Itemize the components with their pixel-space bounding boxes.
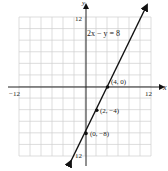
x-axis: x −12 12 (8, 83, 167, 98)
equation-label: 2x − y = 8 (87, 29, 120, 38)
svg-text:(4, 0): (4, 0) (111, 78, 127, 86)
coordinate-plane: x −12 12 y 12 12 2x − y = 8 (4, 0) (2, −… (0, 0, 168, 171)
y-min-tick: 12 (75, 152, 83, 160)
svg-text:(0, −8): (0, −8) (90, 130, 110, 138)
y-axis-label: y (81, 0, 86, 7)
y-max-tick: 12 (75, 15, 83, 23)
point-2-neg4: (2, −4) (95, 107, 120, 115)
x-axis-label: x (162, 83, 167, 92)
x-max-tick: 12 (145, 90, 153, 98)
point-0-neg8: (0, −8) (84, 130, 110, 138)
x-min-tick: −12 (9, 90, 20, 98)
svg-text:(2, −4): (2, −4) (100, 107, 120, 115)
